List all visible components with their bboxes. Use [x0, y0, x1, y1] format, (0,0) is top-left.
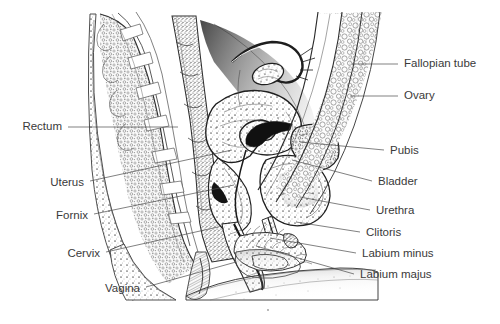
label-vagina: Vagina — [105, 282, 141, 294]
label-clitoris: Clitoris — [366, 226, 401, 238]
label-rectum: Rectum — [22, 120, 62, 132]
label-bladder: Bladder — [378, 175, 418, 187]
label-fallopian-tube: Fallopian tube — [404, 57, 476, 69]
label-cervix: Cervix — [67, 247, 100, 259]
label-labium-minus: Labium minus — [362, 247, 434, 259]
label-ovary: Ovary — [404, 89, 435, 101]
label-uterus: Uterus — [50, 176, 84, 188]
label-fornix: Fornix — [56, 209, 88, 221]
label-labium-majus: Labium majus — [360, 268, 432, 280]
figure-canvas: Rectum Uterus Fornix Cervix Vagina Fallo… — [0, 0, 500, 324]
label-urethra: Urethra — [376, 204, 415, 216]
label-pubis: Pubis — [390, 144, 419, 156]
anatomical-illustration: Rectum Uterus Fornix Cervix Vagina Fallo… — [0, 0, 500, 324]
